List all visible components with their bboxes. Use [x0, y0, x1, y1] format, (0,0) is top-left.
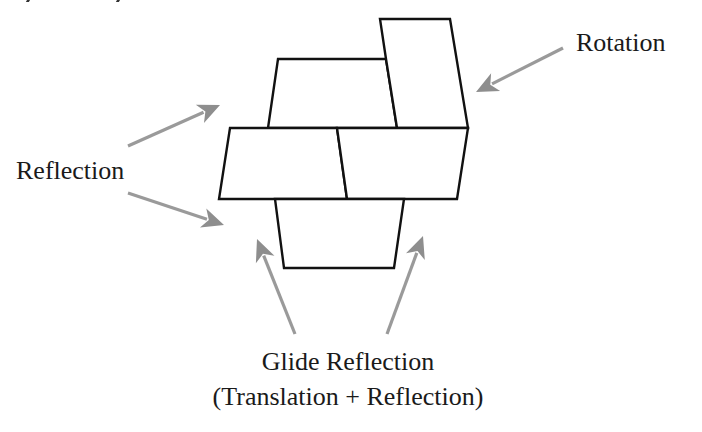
- reflection-upper-arrow-icon: [128, 105, 220, 146]
- tile-shapes: [219, 19, 468, 268]
- reflection-lower-arrow-icon: [128, 193, 224, 228]
- rotation-arrow-icon: [476, 48, 563, 92]
- top-trapezoid-shape: [268, 59, 397, 128]
- bottom-trapezoid-shape: [275, 199, 404, 268]
- glide-reflection-label: Glide Reflection: [0, 349, 696, 375]
- rotation-label: Rotation: [576, 30, 666, 56]
- rotated-piece-shape: [380, 19, 468, 128]
- transformation-diagram: Reflection Rotation Glide Reflection (Tr…: [0, 0, 702, 432]
- reflection-label: Reflection: [16, 158, 124, 184]
- glide-reflection-sublabel: (Translation + Reflection): [0, 384, 696, 410]
- middle-left-shape: [219, 128, 347, 199]
- middle-right-shape: [337, 128, 468, 199]
